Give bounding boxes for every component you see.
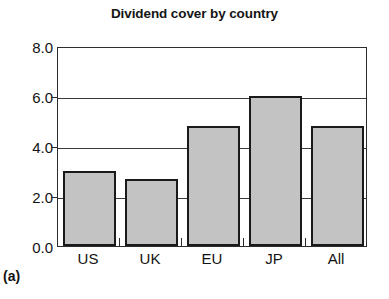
- bar-eu: [187, 126, 240, 246]
- y-axis-tick-label: 2.0: [5, 189, 53, 206]
- x-axis-tick-label-uk: UK: [115, 250, 185, 267]
- bar-jp: [249, 96, 302, 246]
- y-axis-tick-label: 0.0: [5, 239, 53, 256]
- gridline: [58, 98, 366, 99]
- x-axis-tick-label-us: US: [53, 250, 123, 267]
- y-axis-tick-label: 6.0: [5, 89, 53, 106]
- panel-label: (a): [3, 268, 20, 284]
- chart-title: Dividend cover by country: [0, 6, 389, 21]
- bar-all: [311, 126, 364, 246]
- bar-us: [63, 171, 116, 246]
- y-axis-tick-label: 8.0: [5, 39, 53, 56]
- plot-area: [57, 47, 367, 247]
- x-axis-tick-mark: [305, 238, 306, 247]
- x-axis-tick-mark: [243, 238, 244, 247]
- x-axis-tick-mark: [181, 238, 182, 247]
- x-axis-tick-label-all: All: [301, 250, 371, 267]
- figure-panel: Dividend cover by country 0.02.04.06.08.…: [0, 0, 389, 299]
- x-axis-tick-mark: [119, 238, 120, 247]
- x-axis-tick-label-jp: JP: [239, 250, 309, 267]
- bar-uk: [125, 179, 178, 247]
- x-axis-tick-label-eu: EU: [177, 250, 247, 267]
- y-axis-tick-label: 4.0: [5, 139, 53, 156]
